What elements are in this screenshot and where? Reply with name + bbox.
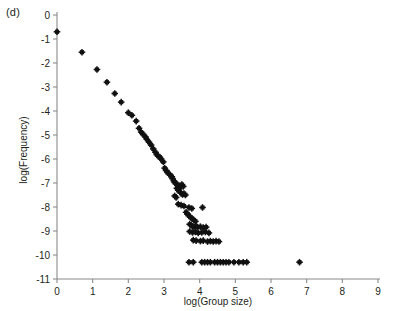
x-tick-label: 2 — [126, 286, 132, 297]
x-tick-label: 3 — [161, 286, 167, 297]
y-tick-label: -2 — [41, 58, 50, 69]
y-tick-label: -7 — [41, 178, 50, 189]
x-tick-label: 6 — [268, 286, 274, 297]
y-tick-label: -3 — [41, 82, 50, 93]
x-tick-label: 1 — [90, 286, 96, 297]
data-point — [296, 259, 303, 266]
data-point — [79, 49, 86, 56]
x-tick-label: 9 — [375, 286, 381, 297]
scatter-plot: 0123456789 0-1-2-3-4-5-6-7-8-9-10-11 log… — [0, 0, 400, 311]
data-point — [199, 204, 206, 211]
y-tick-label: -5 — [41, 130, 50, 141]
data-point — [243, 259, 250, 266]
data-point — [190, 259, 197, 266]
y-tick-label: -10 — [36, 250, 51, 261]
y-tick-label: -8 — [41, 202, 50, 213]
figure-panel: (d) 0123456789 0-1-2-3-4-5-6-7-8-9-10-11… — [0, 0, 400, 311]
data-point — [111, 90, 118, 97]
data-point — [104, 79, 111, 86]
data-point — [133, 118, 140, 125]
data-points — [54, 29, 303, 266]
y-tick-label: 0 — [44, 10, 50, 21]
x-tick-label: 7 — [304, 286, 310, 297]
x-tick-label: 8 — [340, 286, 346, 297]
x-axis-title: log(Group size) — [184, 296, 252, 307]
data-point — [54, 29, 61, 36]
data-point — [118, 99, 125, 106]
y-tick-label: -4 — [41, 106, 50, 117]
x-tick-label: 0 — [54, 286, 60, 297]
y-tick-labels: 0-1-2-3-4-5-6-7-8-9-10-11 — [36, 10, 51, 285]
y-tick-label: -11 — [36, 274, 50, 285]
y-tick-label: -1 — [41, 34, 50, 45]
y-axis-title: log(Frequency) — [18, 116, 29, 183]
y-tick-label: -9 — [41, 226, 50, 237]
y-tick-label: -6 — [41, 154, 50, 165]
data-point — [94, 66, 101, 73]
